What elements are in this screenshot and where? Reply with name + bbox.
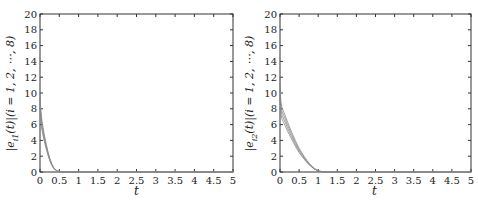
y-tick-label: 4	[271, 135, 277, 146]
series-line	[40, 102, 233, 172]
y-tick-label: 8	[31, 103, 37, 114]
x-tick-label: 2	[114, 175, 120, 186]
x-tick-label: 2	[353, 175, 359, 186]
chart-left: 00.511.522.533.544.5502468101214161820	[0, 0, 239, 202]
series-line	[280, 89, 471, 172]
series-line	[40, 107, 233, 172]
y-tick-label: 16	[24, 40, 37, 51]
y-tick-label: 2	[31, 151, 37, 162]
plot-panel-left: 00.511.522.533.544.5502468101214161820 |…	[0, 0, 239, 202]
y-tick-label: 14	[24, 56, 37, 67]
plot-frame	[40, 14, 233, 172]
x-axis-label-right: t	[372, 184, 377, 198]
y-tick-label: 18	[24, 24, 37, 35]
x-tick-label: 0	[277, 175, 283, 186]
y-tick-label: 10	[24, 88, 37, 99]
x-tick-label: 4	[430, 175, 436, 186]
y-tick-label: 16	[264, 40, 277, 51]
x-tick-label: 0	[37, 175, 43, 186]
x-tick-label: 0.5	[291, 175, 307, 186]
x-tick-label: 1.5	[90, 175, 106, 186]
y-tick-label: 12	[24, 72, 37, 83]
y-tick-label: 0	[271, 167, 277, 178]
y-tick-label: 12	[264, 72, 277, 83]
x-axis-label-left: t	[134, 184, 139, 198]
plot-panel-right: 00.511.522.533.544.5502468101214161820 |…	[239, 0, 478, 202]
x-tick-label: 3.5	[167, 175, 183, 186]
plot-frame	[280, 14, 471, 172]
y-axis-label-right: |ei2(t)|(i = 1, 2, ⋯, 8)	[243, 24, 258, 164]
y-tick-label: 0	[31, 167, 37, 178]
series-line	[40, 93, 233, 172]
x-tick-label: 0.5	[51, 175, 67, 186]
y-tick-label: 14	[264, 56, 277, 67]
x-tick-label: 1	[75, 175, 81, 186]
series-line	[280, 83, 471, 172]
y-axis-label-left: |ei1(t)|(i = 1, 2, ⋯, 8)	[4, 24, 19, 164]
y-tick-label: 6	[31, 119, 37, 130]
x-tick-label: 5	[230, 175, 236, 186]
x-tick-label: 1	[315, 175, 321, 186]
series-line	[40, 98, 233, 172]
y-tick-label: 10	[264, 88, 277, 99]
chart-right: 00.511.522.533.544.5502468101214161820	[239, 0, 478, 202]
x-tick-label: 3	[153, 175, 159, 186]
y-tick-label: 4	[31, 135, 37, 146]
x-tick-label: 5	[468, 175, 474, 186]
x-tick-label: 1.5	[329, 175, 345, 186]
y-tick-label: 2	[271, 151, 277, 162]
y-tick-label: 20	[24, 9, 37, 20]
x-tick-label: 4.5	[206, 175, 222, 186]
x-tick-label: 4.5	[444, 175, 460, 186]
series-line	[280, 94, 471, 172]
x-tick-label: 3.5	[406, 175, 422, 186]
y-tick-label: 20	[264, 9, 277, 20]
series-line	[280, 77, 471, 172]
x-tick-label: 4	[191, 175, 197, 186]
y-tick-label: 6	[271, 119, 277, 130]
y-tick-label: 8	[271, 103, 277, 114]
x-tick-label: 3	[391, 175, 397, 186]
y-tick-label: 18	[264, 24, 277, 35]
